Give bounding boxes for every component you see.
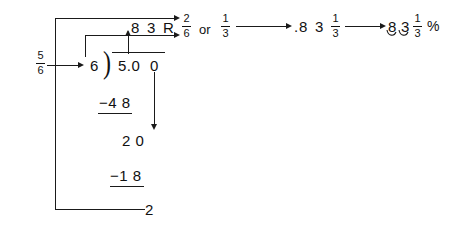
decimal-shift-arc-icon <box>386 28 410 39</box>
divisor-bracket-vertical <box>85 35 86 57</box>
quotient-digit-1: 8 <box>131 20 140 35</box>
decimal-step-fraction: 1 3 <box>331 13 340 39</box>
arrow-down-icon <box>151 124 157 130</box>
dividend: 5.0 <box>118 58 140 73</box>
divisor: 6 <box>90 58 99 73</box>
arrow-up-icon <box>125 30 131 36</box>
subtraction-rule-1 <box>98 113 132 114</box>
percent-step-fraction-numerator: 1 <box>413 13 421 24</box>
source-fraction-numerator: 5 <box>36 50 44 61</box>
arrow-to-decimal-step-shaft <box>236 26 287 27</box>
percent-step-fraction: 1 3 <box>413 13 422 39</box>
partial-remainder: 2 0 <box>122 133 144 148</box>
subtraction-rule-2 <box>110 186 144 187</box>
arrow-to-percent-step-shaft <box>345 26 381 27</box>
subtraction-step-1: −4 8 <box>99 95 131 110</box>
decimal-step-digit-2: 3 <box>315 19 324 34</box>
subtraction-step-2: −1 8 <box>110 168 142 183</box>
percent-symbol: % <box>427 19 440 34</box>
decimal-step-fraction-denominator: 3 <box>331 28 339 39</box>
bring-down-shaft <box>154 72 155 127</box>
remainder-fraction-numerator: 2 <box>182 13 190 24</box>
simplified-fraction-denominator: 3 <box>221 28 229 39</box>
feedback-bracket-bottom <box>55 209 145 210</box>
simplified-fraction-numerator: 1 <box>221 13 229 24</box>
decimal-step-digit-1: 8 <box>299 19 308 34</box>
decimal-step-point: . <box>294 19 299 34</box>
arrow-right-icon <box>78 62 84 68</box>
decimal-step-fraction-numerator: 1 <box>331 13 339 24</box>
arrow-right-icon <box>286 23 292 29</box>
math-diagram-canvas: 5 6 6 ) 5.0 0 . 8 3 R −4 8 2 0 −1 8 2 <box>0 0 449 230</box>
connector-word: or <box>199 23 211 36</box>
decimal-step-fraction-stack: 1 3 <box>331 13 340 39</box>
simplified-fraction-stack: 1 3 <box>221 13 230 39</box>
arrow-source-to-divisor-shaft <box>47 65 79 66</box>
simplified-fraction: 1 3 <box>221 13 230 39</box>
decimal-carry-shaft <box>128 34 129 54</box>
division-bracket-paren: ) <box>103 46 111 78</box>
quotient-digit-2: 3 <box>147 20 156 35</box>
remainder-label: R <box>163 20 174 35</box>
remainder-fraction: 2 6 <box>182 13 191 39</box>
percent-step-fraction-denominator: 3 <box>413 28 421 39</box>
feedback-bracket-top <box>55 18 175 19</box>
division-vinculum <box>112 52 165 53</box>
remainder-fraction-denominator: 6 <box>182 28 190 39</box>
source-fraction: 5 6 <box>36 50 45 76</box>
feedback-bracket-vertical <box>55 18 56 210</box>
source-fraction-stack: 5 6 <box>36 50 45 76</box>
percent-step-fraction-stack: 1 3 <box>413 13 422 39</box>
dividend-extra-zero: 0 <box>150 58 159 73</box>
arrow-right-icon <box>174 15 180 21</box>
final-remainder: 2 <box>145 202 154 217</box>
source-fraction-denominator: 6 <box>36 65 44 76</box>
remainder-fraction-stack: 2 6 <box>182 13 191 39</box>
arrow-right-icon <box>174 32 180 38</box>
